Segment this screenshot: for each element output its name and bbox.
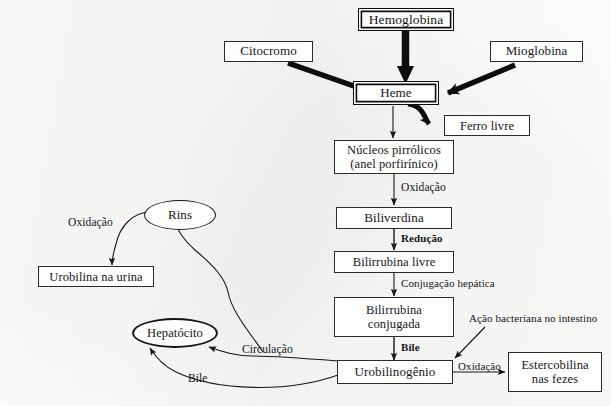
node-urobilinogenio-label: Urobilinogênio	[355, 365, 436, 380]
node-bilirrubina-livre-label: Bilirrubina livre	[353, 255, 436, 269]
node-bilirrubina-conjugada[interactable]: Bilirrubina conjugada	[334, 297, 454, 337]
edge-label-bile-hepatocito: Bile	[188, 372, 208, 384]
node-ferro-livre-label: Ferro livre	[460, 119, 514, 133]
node-nucleos-line1: Núcleos pirrólicos	[347, 143, 441, 157]
edge-acao-bacteriana-to-urobilinogenio	[455, 327, 485, 358]
node-biliverdina-label: Biliverdina	[364, 211, 424, 226]
edge-label-oxidacao-nucleos: Oxidação	[401, 181, 446, 193]
node-hemoglobina-label: Hemoglobina	[369, 12, 444, 27]
node-conjugada-line2: conjugada	[368, 317, 420, 331]
node-ferro-livre[interactable]: Ferro livre	[444, 115, 530, 136]
edge-label-acao-bacteriana: Ação bacteriana no intestino	[469, 312, 597, 324]
edge-label-bile-centro: Bile	[401, 341, 420, 353]
node-hepatocito[interactable]: Hepatócito	[132, 318, 218, 348]
node-estercobilina[interactable]: Estercobilina nas fezes	[508, 352, 602, 392]
node-estercobilina-line2: nas fezes	[532, 372, 578, 386]
node-nucleos-pirrolicos[interactable]: Núcleos pirrólicos (anel porfirínico)	[334, 140, 454, 174]
node-rins[interactable]: Rins	[144, 200, 216, 230]
node-conjugada-line1: Bilirrubina	[366, 303, 422, 317]
node-hemoglobina[interactable]: Hemoglobina	[358, 8, 454, 31]
edge-label-circulacao: Circulação	[242, 343, 293, 355]
node-mioglobina[interactable]: Mioglobina	[490, 41, 583, 62]
node-hepatocito-label: Hepatócito	[147, 326, 203, 340]
node-estercobilina-line1: Estercobilina	[521, 358, 588, 372]
edge-label-conjugacao-hepatica: Conjugação hepática	[401, 277, 495, 289]
node-bilirrubina-livre[interactable]: Bilirrubina livre	[334, 251, 454, 273]
node-citocromo-label: Citocromo	[240, 44, 297, 59]
diagram-canvas: Hemoglobina Citocromo Mioglobina Heme Fe…	[0, 0, 611, 406]
node-rins-label: Rins	[168, 208, 192, 223]
node-urobilina-label: Urobilina na urina	[49, 270, 142, 284]
node-urobilina-na-urina[interactable]: Urobilina na urina	[38, 266, 154, 287]
node-urobilinogenio[interactable]: Urobilinogênio	[337, 360, 453, 384]
node-biliverdina[interactable]: Biliverdina	[336, 207, 452, 229]
node-nucleos-line2: (anel porfirínico)	[350, 157, 438, 171]
edge-label-reducao: Redução	[401, 232, 443, 244]
node-heme-label: Heme	[380, 86, 411, 101]
edge-label-oxidacao-rins: Oxidação	[68, 216, 113, 228]
node-citocromo[interactable]: Citocromo	[224, 41, 313, 62]
edge-heme-to-ferro	[408, 104, 429, 124]
edge-hemoglobina-to-heme	[397, 31, 414, 84]
edge-mioglobina-to-heme	[448, 65, 515, 93]
node-heme[interactable]: Heme	[353, 81, 439, 105]
edge-label-oxidacao-estercobilina: Oxidação	[458, 360, 501, 372]
node-mioglobina-label: Mioglobina	[506, 44, 568, 59]
